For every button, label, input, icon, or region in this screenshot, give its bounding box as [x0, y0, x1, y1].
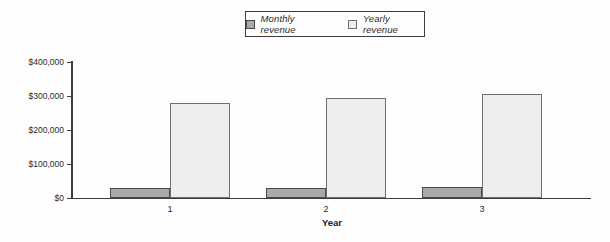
x-category-label-2: 2	[306, 204, 346, 214]
y-tick-mark	[67, 96, 72, 97]
revenue-bar-chart: Monthly revenue Yearly revenue $0$100,00…	[0, 0, 610, 242]
y-tick-mark	[67, 164, 72, 165]
y-tick-mark	[67, 62, 72, 63]
x-category-label-1: 1	[150, 204, 190, 214]
x-axis-title: Year	[72, 217, 592, 228]
y-tick-label: $0	[12, 194, 64, 203]
y-tick-label: $400,000	[12, 58, 64, 67]
y-tick-mark	[67, 130, 72, 131]
chart-legend: Monthly revenue Yearly revenue	[245, 11, 425, 37]
monthly-revenue-swatch-icon	[246, 20, 255, 29]
legend-item-monthly-revenue: Monthly revenue	[246, 13, 328, 35]
yearly-revenue-bar-year-3	[482, 94, 542, 198]
legend-item-yearly-revenue: Yearly revenue	[348, 13, 424, 35]
yearly-revenue-bar-year-1	[170, 103, 230, 198]
x-category-label-3: 3	[462, 204, 502, 214]
legend-label-yearly-revenue: Yearly revenue	[363, 13, 424, 35]
yearly-revenue-swatch-icon	[348, 20, 357, 29]
y-tick-mark	[67, 198, 72, 199]
y-tick-label: $200,000	[12, 126, 64, 135]
y-tick-label: $100,000	[12, 160, 64, 169]
yearly-revenue-bar-year-2	[326, 98, 386, 198]
y-tick-label: $300,000	[12, 92, 64, 101]
legend-label-monthly-revenue: Monthly revenue	[261, 13, 329, 35]
monthly-revenue-bar-year-2	[266, 188, 326, 198]
monthly-revenue-bar-year-3	[422, 187, 482, 198]
monthly-revenue-bar-year-1	[110, 188, 170, 198]
